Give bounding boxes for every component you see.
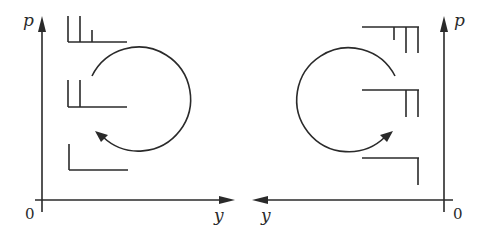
right-p-axis-label: p [454, 12, 465, 29]
diagram: p y 0 p y 0 [0, 0, 489, 243]
left-y-axis-arrow-icon [219, 196, 235, 204]
right-glyph-bottom [362, 158, 419, 185]
right-panel [252, 16, 453, 212]
left-panel [35, 16, 235, 212]
right-y-axis [252, 196, 453, 204]
right-origin-label: 0 [453, 207, 463, 222]
right-p-axis-arrow-icon [440, 16, 448, 32]
left-y-axis [35, 196, 235, 204]
left-p-axis-arrow-icon [38, 16, 46, 32]
right-glyph-top [362, 27, 419, 53]
left-origin-label: 0 [25, 207, 35, 222]
left-glyph-top [68, 16, 127, 42]
right-p-axis [440, 16, 448, 212]
left-p-axis [38, 16, 46, 212]
left-rotation-arrow-icon [92, 47, 191, 151]
diagram-canvas [0, 0, 489, 243]
right-y-axis-arrow-icon [252, 196, 268, 204]
left-p-axis-label: p [23, 12, 34, 29]
left-y-axis-label: y [214, 207, 224, 224]
left-glyph-middle [68, 80, 127, 107]
right-rotation-arrow-icon [297, 48, 395, 152]
right-y-axis-label: y [261, 207, 271, 224]
right-glyph-middle [362, 90, 419, 117]
